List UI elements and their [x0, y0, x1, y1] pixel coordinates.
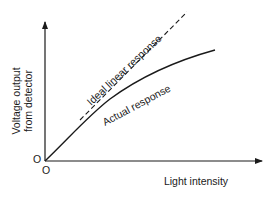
y-axis-label-line1: Voltage output	[10, 67, 22, 134]
detector-response-diagram: Voltage output from detector O O Light i…	[0, 0, 275, 197]
y-origin-label: O	[33, 153, 41, 165]
x-axis-label: Light intensity	[164, 175, 229, 187]
x-origin-label: O	[42, 164, 50, 176]
y-axis-label-line2: from detector	[22, 70, 34, 132]
